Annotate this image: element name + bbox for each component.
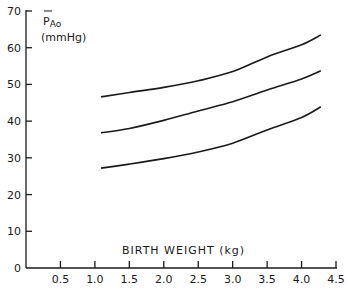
- x-tick-label: 4.0: [293, 273, 311, 286]
- x-tick-label: 4.5: [327, 273, 345, 286]
- line-chart: 010203040506070 0.51.01.52.02.53.03.54.0…: [0, 0, 347, 291]
- x-tick-label: 2.5: [189, 273, 207, 286]
- y-tick-label: 60: [7, 42, 21, 55]
- y-tick-label: 50: [7, 78, 21, 91]
- x-axis-title: BIRTH WEIGHT (kg): [122, 244, 245, 257]
- x-tick-label: 1.5: [121, 273, 139, 286]
- series-line-lower: [101, 107, 321, 168]
- y-tick-label: 70: [7, 5, 21, 18]
- y-tick-label: 10: [7, 225, 21, 238]
- y-axis-title: PAo (mmHg): [41, 11, 86, 44]
- y-tick-label: 0: [14, 262, 21, 275]
- y-tick-label: 20: [7, 189, 21, 202]
- series-line-upper: [101, 35, 321, 97]
- y-ticks: 010203040506070: [7, 5, 32, 275]
- series-line-middle: [101, 71, 321, 133]
- x-tick-label: 3.0: [224, 273, 242, 286]
- y-tick-label: 40: [7, 115, 21, 128]
- y-axis-title-units: (mmHg): [41, 31, 86, 44]
- y-axis-title-main: PAo: [43, 15, 62, 29]
- y-tick-label: 30: [7, 152, 21, 165]
- x-ticks: 0.51.01.52.02.53.03.54.04.5: [52, 261, 345, 286]
- x-tick-label: 2.0: [155, 273, 173, 286]
- series-lines: [101, 35, 321, 168]
- x-tick-label: 1.0: [86, 273, 104, 286]
- x-tick-label: 0.5: [52, 273, 70, 286]
- x-tick-label: 3.5: [258, 273, 276, 286]
